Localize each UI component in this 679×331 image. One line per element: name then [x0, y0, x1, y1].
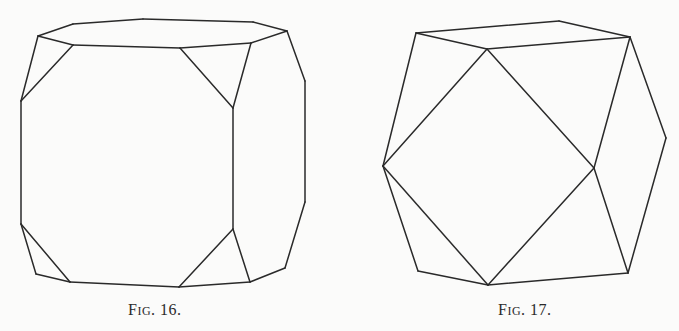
polyhedron-edge: [383, 166, 418, 271]
polyhedron-edge: [250, 268, 285, 282]
polyhedron-edge: [488, 273, 628, 285]
figure-17-cuboctahedron: [383, 21, 666, 285]
figures-canvas: [0, 0, 679, 331]
figure-16-truncated-cube: [21, 19, 305, 287]
polyhedron-edge: [38, 24, 73, 36]
polyhedron-edge: [287, 31, 305, 81]
polyhedron-edge: [38, 36, 73, 45]
polyhedron-edge: [487, 49, 594, 168]
polyhedron-edge: [143, 19, 253, 22]
polyhedron-edge: [180, 43, 251, 48]
polyhedron-edge: [233, 229, 250, 282]
polyhedron-edge: [179, 282, 250, 287]
polyhedron-edge: [180, 48, 233, 108]
polyhedron-edge: [383, 166, 488, 285]
caption-smallcaps: IG: [137, 304, 151, 318]
caption-number: . 17.: [521, 301, 552, 318]
figure-16-caption: FIG. 16.: [128, 301, 182, 319]
polyhedron-edge: [253, 22, 287, 31]
polyhedron-edge: [594, 37, 630, 168]
polyhedron-edge: [630, 37, 666, 138]
caption-initial: F: [128, 301, 137, 318]
caption-smallcaps: IG: [507, 304, 521, 318]
caption-number: . 16.: [151, 301, 182, 318]
polyhedron-edge: [488, 168, 594, 285]
polyhedron-edge: [70, 282, 179, 287]
polyhedron-edge: [179, 229, 233, 287]
polyhedron-edge: [233, 43, 251, 108]
polyhedron-edge: [21, 224, 70, 282]
caption-initial: F: [498, 301, 507, 318]
figure-17-caption: FIG. 17.: [498, 301, 552, 319]
polyhedron-edge: [21, 224, 36, 274]
polyhedron-edge: [383, 49, 487, 166]
polyhedron-edge: [383, 33, 416, 166]
polyhedron-edge: [73, 45, 180, 48]
polyhedron-edge: [487, 37, 630, 49]
polyhedron-edge: [416, 21, 559, 33]
polyhedron-edge: [594, 168, 628, 273]
polyhedron-edge: [285, 202, 305, 268]
polyhedron-edge: [416, 33, 487, 49]
polyhedron-edge: [628, 138, 666, 273]
polyhedron-edge: [559, 21, 630, 37]
polyhedron-edge: [251, 31, 287, 43]
polyhedron-edge: [73, 19, 143, 24]
